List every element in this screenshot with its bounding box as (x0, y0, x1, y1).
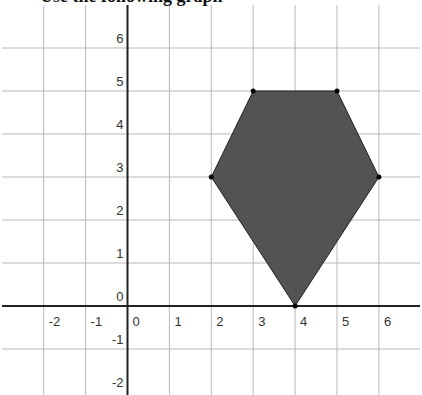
y-tick-label: 4 (116, 117, 123, 132)
vertex-point (209, 175, 214, 180)
vertex-point (376, 175, 381, 180)
title-fragment: Use the following graph (40, 0, 223, 7)
x-tick-label: 2 (216, 314, 223, 329)
x-tick-label: -2 (49, 314, 61, 329)
x-tick-label: 1 (174, 314, 181, 329)
x-tick-label: 4 (300, 314, 307, 329)
y-tick-label: -1 (112, 332, 124, 347)
y-tick-label: 5 (116, 74, 123, 89)
shaded-hexagon (211, 91, 379, 306)
x-tick-label: 0 (133, 314, 140, 329)
x-tick-label: 5 (342, 314, 349, 329)
x-tick-label: -1 (91, 314, 103, 329)
vertex-point (293, 304, 298, 309)
vertex-point (251, 89, 256, 94)
x-tick-label: 3 (258, 314, 265, 329)
plot-area: -2-101234566543210-1-2 (0, 0, 422, 395)
y-tick-label: 2 (116, 203, 123, 218)
y-tick-label: -2 (112, 375, 124, 390)
y-tick-label: 0 (116, 289, 123, 304)
x-tick-label: 6 (384, 314, 391, 329)
vertex-point (335, 89, 340, 94)
coordinate-grid: Use the following graph -2-1012345665432… (0, 0, 422, 395)
y-tick-label: 3 (116, 160, 123, 175)
y-tick-label: 1 (116, 246, 123, 261)
y-tick-label: 6 (116, 31, 123, 46)
